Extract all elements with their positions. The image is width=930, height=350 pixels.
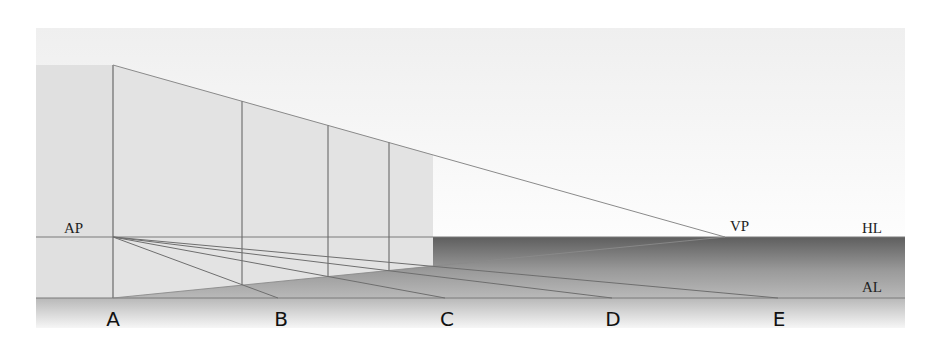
label-point-c: C xyxy=(440,307,454,331)
label-point-b: B xyxy=(274,307,288,331)
perspective-diagram: AP VP HL AL A B C D E xyxy=(0,0,930,350)
wall-front-face xyxy=(36,65,113,298)
label-point-d: D xyxy=(605,307,620,331)
label-vp: VP xyxy=(730,218,749,234)
label-al: AL xyxy=(862,279,882,295)
label-point-e: E xyxy=(773,307,786,331)
label-point-a: A xyxy=(106,307,120,331)
label-ap: AP xyxy=(64,220,83,236)
label-hl: HL xyxy=(862,220,882,236)
